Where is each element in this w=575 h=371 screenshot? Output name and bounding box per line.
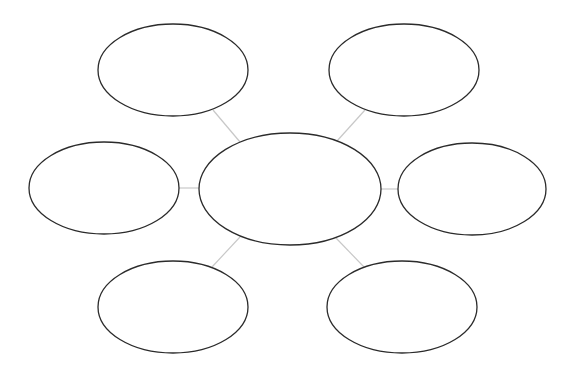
- ellipse-top-left[interactable]: [98, 24, 248, 116]
- bubble-top-left[interactable]: [98, 24, 248, 116]
- bubble-right[interactable]: [398, 143, 546, 235]
- ellipse-center[interactable]: [199, 133, 381, 245]
- ellipse-left[interactable]: [29, 142, 179, 234]
- bubble-center[interactable]: [199, 133, 381, 245]
- ellipse-bottom-left[interactable]: [98, 261, 248, 353]
- bubble-bottom-right[interactable]: [327, 261, 477, 353]
- bubble-nodes: [29, 24, 546, 353]
- connector-bottom-left: [212, 237, 240, 267]
- ellipse-top-right[interactable]: [329, 24, 479, 116]
- ellipse-right[interactable]: [398, 143, 546, 235]
- bubble-left[interactable]: [29, 142, 179, 234]
- ellipse-bottom-right[interactable]: [327, 261, 477, 353]
- connector-top-right: [337, 110, 365, 141]
- connector-bottom-right: [336, 238, 364, 267]
- bubble-bottom-left[interactable]: [98, 261, 248, 353]
- bubble-top-right[interactable]: [329, 24, 479, 116]
- bubble-map-diagram: [0, 0, 575, 371]
- connector-top-left: [213, 110, 240, 142]
